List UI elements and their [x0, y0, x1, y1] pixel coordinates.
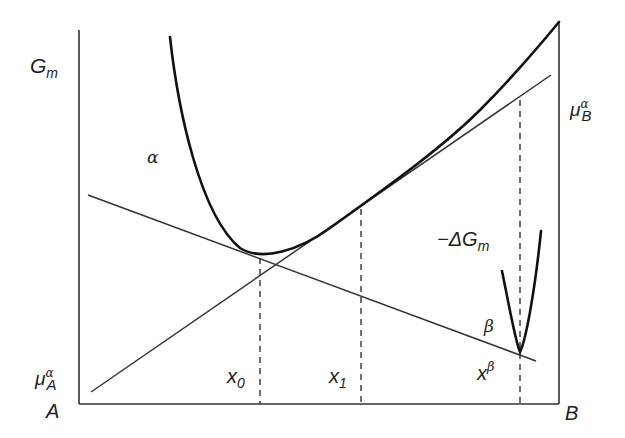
- beta-phase-label: β: [483, 316, 494, 336]
- beta-tangent-line: [88, 195, 536, 361]
- mu-A-label: μαA: [34, 366, 57, 393]
- beta-curve: [502, 231, 541, 352]
- alpha-curve: [170, 22, 559, 254]
- gibbs-energy-diagram: Gm α β μαB μαA −ΔGm x0 x1 xβ A B: [0, 0, 625, 438]
- mu-B-label: μαB: [569, 97, 592, 124]
- xbeta-label: xβ: [476, 359, 495, 384]
- component-a-label: A: [45, 400, 59, 422]
- alpha-phase-label: α: [147, 147, 159, 167]
- neg-delta-g-label: −ΔGm: [437, 228, 490, 254]
- x0-label: x0: [226, 365, 245, 391]
- axes: [79, 22, 559, 404]
- x1-label: x1: [328, 365, 347, 391]
- component-b-label: B: [565, 402, 578, 424]
- y-axis-label: Gm: [30, 54, 58, 81]
